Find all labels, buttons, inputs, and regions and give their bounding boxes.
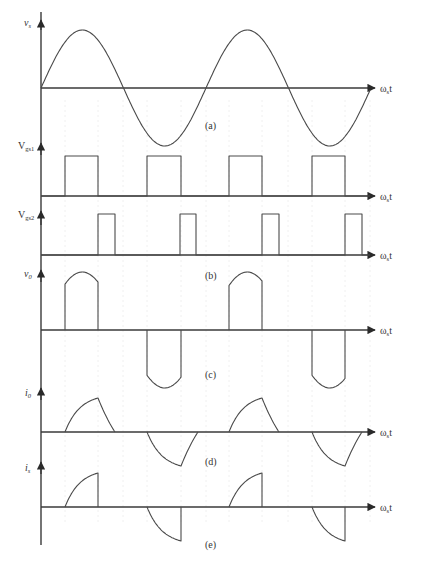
panel-c: v0 ωst (c) [24,268,392,388]
waveform-diagram: vs ωst (a) Vgs1 ωst Vgs2 ωst (b) v0 ωst … [0,0,427,565]
gate2-pulse-train [41,214,370,255]
y-label-io: i0 [25,387,32,399]
y-label-vo: v0 [24,268,32,280]
panel-e: is ωst (e) [25,462,392,551]
caption-e: (e) [205,539,216,551]
x-label-a: ωst [380,83,392,95]
gate1-pulse-train [41,156,370,196]
y-label-vgs1: Vgs1 [18,140,34,152]
panel-d: i0 ωst (d) [25,387,392,468]
y-label-is: is [25,462,31,474]
caption-a: (a) [205,120,216,132]
panel-b-gate1: Vgs1 ωst [18,140,392,203]
y-label-vs: vs [24,17,31,29]
caption-c: (c) [205,369,216,381]
caption-b: (b) [205,270,217,282]
x-label-vo: ωst [380,325,392,337]
x-label-gs2: ωst [380,250,392,262]
x-label-is: ωst [380,502,392,514]
panel-a: vs ωst (a) [24,17,392,146]
guide-lines [65,100,370,525]
x-label-gs1: ωst [380,191,392,203]
caption-d: (d) [205,456,217,468]
x-label-io: ωst [380,427,392,439]
y-label-vgs2: Vgs2 [18,209,34,221]
panel-b-gate2: Vgs2 ωst (b) [18,209,392,282]
